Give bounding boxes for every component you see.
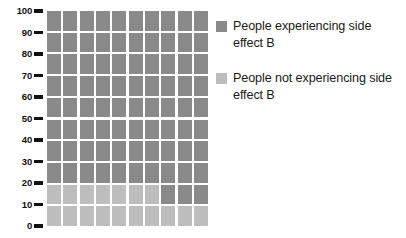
waffle-cell: [129, 206, 143, 226]
waffle-cell: [112, 120, 126, 140]
waffle-cell: [194, 141, 208, 161]
waffle-cell: [194, 120, 208, 140]
waffle-cell: [178, 11, 192, 31]
waffle-cell: [194, 76, 208, 96]
waffle-cell: [47, 98, 61, 118]
waffle-cell: [145, 54, 159, 74]
waffle-cell: [161, 98, 175, 118]
waffle-cell: [63, 54, 77, 74]
y-axis-tick-label: 10: [22, 200, 34, 210]
waffle-cell: [80, 185, 94, 205]
waffle-cell: [145, 163, 159, 183]
waffle-cell: [47, 54, 61, 74]
waffle-cell: [63, 33, 77, 53]
y-axis-tick-mark: [34, 160, 43, 164]
y-axis-tick-mark: [34, 52, 43, 56]
waffle-cell: [47, 163, 61, 183]
waffle-cell: [80, 120, 94, 140]
y-axis-tick-label: 70: [22, 71, 34, 81]
y-axis-tick-label: 100: [17, 6, 34, 16]
waffle-cell: [96, 206, 110, 226]
waffle-cell: [129, 120, 143, 140]
waffle-cell: [63, 185, 77, 205]
waffle-cell: [96, 120, 110, 140]
waffle-cell: [145, 33, 159, 53]
waffle-cell: [194, 163, 208, 183]
waffle-cell: [161, 185, 175, 205]
y-axis-tick-label: 60: [22, 92, 34, 102]
y-axis-tick-label: 30: [22, 157, 34, 167]
y-axis-tick-label: 80: [22, 49, 34, 59]
waffle-cell: [80, 11, 94, 31]
waffle-cell: [63, 98, 77, 118]
waffle-cell: [129, 54, 143, 74]
waffle-cell: [63, 11, 77, 31]
y-axis-tick-mark: [34, 117, 43, 121]
waffle-cell: [145, 206, 159, 226]
waffle-cell: [161, 11, 175, 31]
waffle-cell: [161, 163, 175, 183]
waffle-cell: [161, 76, 175, 96]
waffle-cell: [80, 141, 94, 161]
legend-item: People experiencing side effect B: [216, 18, 402, 51]
y-axis-tick-mark: [34, 95, 43, 99]
legend-label: People not experiencing side effect B: [233, 70, 402, 103]
waffle-cell: [47, 120, 61, 140]
waffle-cell: [80, 33, 94, 53]
waffle-cell: [178, 76, 192, 96]
waffle-cell: [194, 98, 208, 118]
waffle-cell: [96, 11, 110, 31]
waffle-cell: [80, 206, 94, 226]
waffle-cell: [145, 11, 159, 31]
waffle-cell: [47, 185, 61, 205]
waffle-cell: [194, 11, 208, 31]
waffle-cell: [178, 54, 192, 74]
waffle-cell: [47, 33, 61, 53]
waffle-cell: [194, 33, 208, 53]
waffle-cell: [96, 54, 110, 74]
y-axis-tick-mark: [34, 181, 43, 185]
waffle-cell: [161, 141, 175, 161]
waffle-cell: [80, 76, 94, 96]
waffle-cell: [63, 206, 77, 226]
waffle-cell: [194, 185, 208, 205]
waffle-cell: [178, 120, 192, 140]
waffle-cell: [96, 141, 110, 161]
waffle-cell: [63, 163, 77, 183]
waffle-cell: [112, 98, 126, 118]
waffle-cell: [96, 185, 110, 205]
waffle-cell: [112, 163, 126, 183]
waffle-cell: [129, 185, 143, 205]
legend-label: People experiencing side effect B: [233, 18, 402, 51]
waffle-chart: 1009080706050403020100 People experienci…: [0, 0, 406, 238]
y-axis-tick-label: 50: [22, 114, 34, 124]
waffle-cell: [161, 120, 175, 140]
legend-item: People not experiencing side effect B: [216, 70, 402, 103]
waffle-cell: [63, 120, 77, 140]
y-axis-tick-mark: [34, 31, 43, 35]
waffle-cell: [96, 98, 110, 118]
waffle-cell: [161, 54, 175, 74]
waffle-cell: [63, 141, 77, 161]
waffle-cell: [47, 206, 61, 226]
waffle-cell: [161, 33, 175, 53]
waffle-cell: [96, 163, 110, 183]
waffle-cell: [47, 141, 61, 161]
waffle-cell: [80, 98, 94, 118]
waffle-cell: [129, 76, 143, 96]
chart-legend: People experiencing side effect BPeople …: [216, 18, 402, 122]
waffle-cell: [112, 185, 126, 205]
waffle-cell: [178, 141, 192, 161]
waffle-cell: [145, 98, 159, 118]
waffle-cell: [80, 163, 94, 183]
waffle-cell: [112, 11, 126, 31]
waffle-cell: [129, 141, 143, 161]
waffle-cell: [194, 206, 208, 226]
waffle-cell: [112, 206, 126, 226]
waffle-cell: [178, 185, 192, 205]
waffle-cell: [129, 163, 143, 183]
y-axis-tick-label: 40: [22, 135, 34, 145]
waffle-cell: [178, 98, 192, 118]
waffle-cell: [96, 33, 110, 53]
waffle-cell: [145, 120, 159, 140]
